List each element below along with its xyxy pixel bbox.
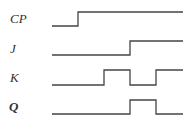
- timing-diagram: CP J K Q: [0, 0, 193, 126]
- signal-label-q: Q: [9, 99, 19, 114]
- signal-j: J: [10, 41, 183, 56]
- signal-k: K: [9, 70, 183, 85]
- waveform-q: [52, 100, 183, 114]
- signal-q: Q: [9, 99, 183, 114]
- waveform-j: [52, 41, 183, 55]
- signal-cp: CP: [10, 11, 183, 26]
- signal-label-cp: CP: [10, 11, 27, 26]
- signal-label-j: J: [10, 41, 17, 56]
- waveform-cp: [52, 12, 183, 26]
- waveform-k: [52, 70, 183, 85]
- signal-label-k: K: [9, 70, 20, 85]
